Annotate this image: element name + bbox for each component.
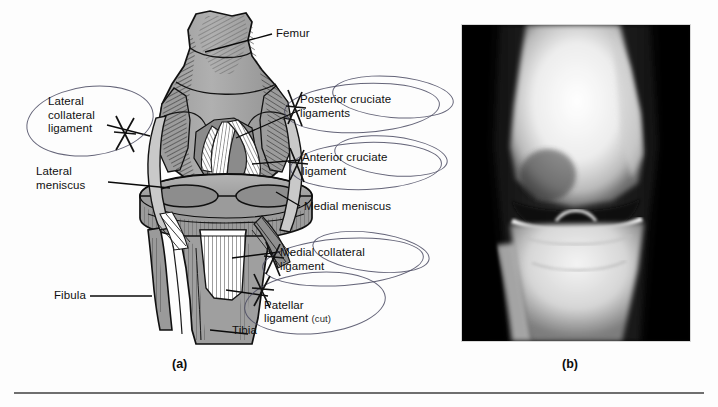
- label-medial-meniscus: Medial meniscus: [304, 200, 391, 214]
- panel-letter-b: (b): [562, 357, 578, 371]
- annotation-cross-lateral-collateral: [112, 112, 138, 156]
- label-femur: Femur: [276, 27, 310, 41]
- knee-radiograph: [462, 25, 690, 341]
- xray-tibia: [510, 223, 644, 341]
- annotation-cross-posterior-cruciate: [284, 88, 308, 130]
- figure-page: Femur Lateral collateral ligament Latera…: [0, 0, 718, 407]
- patellar-ligament-cut: [200, 230, 246, 300]
- bottom-divider: [14, 392, 704, 394]
- label-tibia: Tibia: [232, 324, 257, 338]
- label-lateral-collateral-ligament: Lateral collateral ligament: [48, 95, 95, 136]
- label-medial-collateral-ligament: Medial collateral ligament: [280, 246, 365, 273]
- label-fibula: Fibula: [54, 289, 86, 303]
- label-posterior-cruciate-ligaments: Posterior cruciate ligaments: [300, 93, 391, 120]
- annotation-cross-patellar-ligament: [250, 272, 276, 312]
- label-lateral-meniscus: Lateral meniscus: [36, 165, 85, 192]
- panel-letter-a: (a): [172, 357, 187, 371]
- label-patellar-ligament-note: (cut): [312, 313, 332, 324]
- label-anterior-cruciate-ligament: Anterior cruciate ligament: [302, 151, 387, 178]
- annotation-cross-anterior-cruciate: [286, 146, 310, 186]
